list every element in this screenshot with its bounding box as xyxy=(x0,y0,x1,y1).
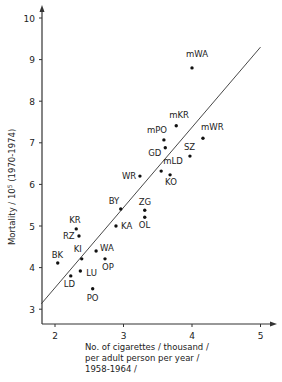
data-point: LD xyxy=(64,274,76,289)
data-point: KR xyxy=(69,215,81,231)
data-point: PO xyxy=(87,287,99,303)
point-label: mPO xyxy=(147,125,167,135)
y-axis-arrow-icon xyxy=(40,5,45,12)
point-label: OL xyxy=(139,220,151,230)
x-tick-label: 5 xyxy=(258,331,264,340)
y-tick-label: 6 xyxy=(29,180,35,190)
point-label: mLD xyxy=(163,156,183,166)
data-point: KI xyxy=(74,244,84,261)
data-point: KO xyxy=(165,173,177,187)
y-tick-label: 10 xyxy=(24,14,36,24)
point-label: OP xyxy=(102,262,114,272)
x-axis-arrow-icon xyxy=(270,322,277,327)
y-tick-label: 3 xyxy=(29,305,35,315)
axes: 3456789102345 xyxy=(24,5,277,340)
point-label: KR xyxy=(69,215,81,225)
data-point: ZG xyxy=(139,197,151,212)
svg-text:Mortality / 105 (1970-1974): Mortality / 105 (1970-1974) xyxy=(6,129,17,245)
data-point: KA xyxy=(114,221,132,231)
x-tick-label: 2 xyxy=(52,331,58,340)
data-point: SZ xyxy=(184,142,195,158)
scatter-chart: 3456789102345 mWAmKRmPOGDmWRSZmLDKOWRBYK… xyxy=(0,0,282,340)
point-label: WR xyxy=(122,171,136,181)
y-tick-label: 5 xyxy=(29,222,35,232)
point-label: KI xyxy=(74,244,82,254)
point-label: mWA xyxy=(186,49,208,59)
point-label: KA xyxy=(121,221,132,231)
data-point: mLD xyxy=(159,156,183,173)
data-point: mPO xyxy=(147,125,167,142)
point-label: mKR xyxy=(169,110,189,120)
point-label: WA xyxy=(100,243,114,253)
point-label: BK xyxy=(52,250,64,260)
point-label: LU xyxy=(86,268,97,278)
point-label: SZ xyxy=(184,142,195,152)
data-point: mWR xyxy=(201,122,224,140)
point-label: KO xyxy=(165,177,177,187)
data-point: OL xyxy=(139,216,151,231)
data-point: LU xyxy=(79,268,97,278)
data-point: mKR xyxy=(169,110,189,128)
y-tick-label: 9 xyxy=(29,55,35,65)
point-label: LD xyxy=(64,279,76,289)
y-axis-label: Mortality / 105 (1970-1974) xyxy=(6,129,17,245)
x-tick-label: 3 xyxy=(121,331,127,340)
point-label: mWR xyxy=(201,122,224,132)
regression-line xyxy=(41,47,260,304)
data-point: BY xyxy=(109,196,123,211)
y-tick-label: 8 xyxy=(29,97,35,107)
data-point: BK xyxy=(52,250,64,265)
point-label: BY xyxy=(109,196,120,206)
data-point: WA xyxy=(94,243,114,253)
x-tick-label: 4 xyxy=(189,331,195,340)
data-point: WR xyxy=(122,171,142,181)
x-axis-label: No. of cigarettes / thousand / per adult… xyxy=(85,342,209,375)
data-point: mWA xyxy=(186,49,208,70)
y-tick-label: 4 xyxy=(29,263,35,273)
data-point: OP xyxy=(102,257,114,272)
data-points: mWAmKRmPOGDmWRSZmLDKOWRBYKAZGOLKRRZBKKIW… xyxy=(52,49,224,303)
point-label: GD xyxy=(148,148,162,158)
point-label: RZ xyxy=(63,231,75,241)
data-point: RZ xyxy=(63,231,81,241)
point-label: ZG xyxy=(139,197,151,207)
y-tick-label: 7 xyxy=(29,138,35,148)
point-label: PO xyxy=(87,293,99,303)
